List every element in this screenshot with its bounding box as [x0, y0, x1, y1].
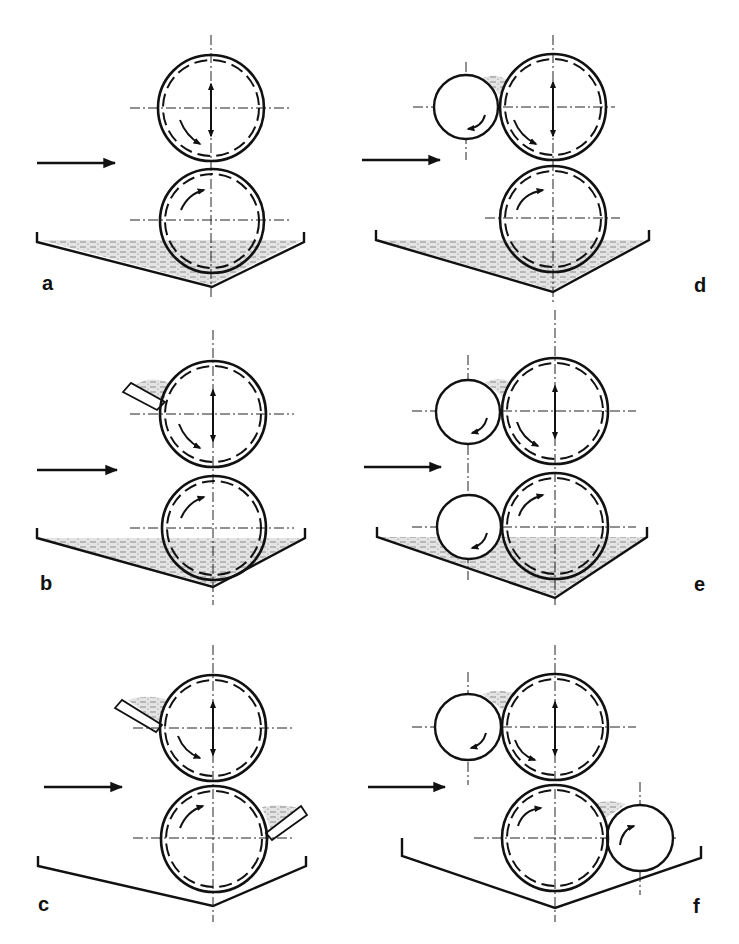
- panel-c: c: [38, 645, 307, 922]
- panel-a: a: [37, 35, 304, 300]
- panel-d: d: [362, 35, 706, 305]
- panel-label-b: b: [40, 572, 52, 594]
- panel-label-a: a: [42, 272, 54, 294]
- panel-label-c: c: [38, 893, 49, 915]
- panel-e: e: [364, 310, 705, 605]
- roll-coating-diagram: a d: [0, 0, 739, 944]
- metering-roll-upper: [435, 694, 501, 760]
- metering-roll: [434, 75, 498, 139]
- metering-roll-lower: [607, 805, 673, 871]
- panel-label-d: d: [694, 274, 706, 296]
- panel-label-e: e: [694, 573, 705, 595]
- panel-f: f: [368, 645, 701, 922]
- lower-roll: [161, 786, 267, 892]
- metering-roll-upper: [436, 380, 500, 444]
- metering-roll-lower: [437, 495, 501, 559]
- panel-label-f: f: [693, 895, 700, 917]
- panel-b: b: [37, 330, 305, 605]
